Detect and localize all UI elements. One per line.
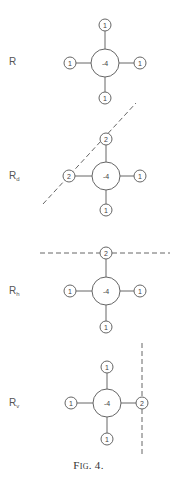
label-subscript: d <box>16 176 19 182</box>
label-subscript: v <box>16 403 19 409</box>
left-value: 1 <box>68 288 72 295</box>
top-value: 2 <box>104 250 108 257</box>
bottom-value: 1 <box>104 324 108 331</box>
bottom-value: 1 <box>103 95 107 102</box>
panel-rd: -4 2 2 1 1 <box>43 103 146 216</box>
label-main: R <box>9 56 16 67</box>
diagonal-boundary-line <box>43 103 136 204</box>
left-value: 1 <box>68 60 72 67</box>
panel-r: -4 1 1 1 1 <box>64 19 146 104</box>
top-value: 1 <box>103 22 107 29</box>
panel-label-rv: Rv <box>9 397 19 409</box>
panel-rh: -4 2 1 1 1 <box>40 247 170 333</box>
bottom-value: 1 <box>105 436 109 443</box>
top-value: 1 <box>105 364 109 371</box>
left-value: 2 <box>67 173 71 180</box>
left-value: 1 <box>69 400 73 407</box>
figure-caption: Fig. 4. <box>0 459 177 471</box>
right-value: 2 <box>140 400 144 407</box>
panel-label-rd: Rd <box>9 170 20 182</box>
label-subscript: h <box>16 291 19 297</box>
panel-rv: -4 1 1 2 1 <box>65 343 148 456</box>
panel-label-r: R <box>9 56 16 68</box>
center-value: -4 <box>102 60 108 67</box>
bottom-value: 1 <box>104 207 108 214</box>
stencil-diagram: -4 1 1 1 1 -4 2 2 1 1 <box>0 0 177 478</box>
center-value: -4 <box>103 288 109 295</box>
right-value: 1 <box>138 60 142 67</box>
right-value: 1 <box>138 173 142 180</box>
center-value: -4 <box>103 173 109 180</box>
center-value: -4 <box>104 400 110 407</box>
panel-label-rh: Rh <box>9 285 20 297</box>
top-value: 2 <box>104 136 108 143</box>
right-value: 1 <box>138 288 142 295</box>
